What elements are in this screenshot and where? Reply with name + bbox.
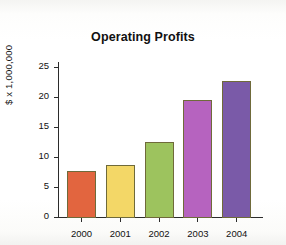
x-tick-label-2004: 2004 <box>216 228 257 239</box>
bars-group: 20002001200220032004 <box>58 62 263 218</box>
x-tick-2004 <box>236 218 237 222</box>
y-tick-label-25: 25 <box>29 60 49 71</box>
chart-title: Operating Profits <box>0 30 286 44</box>
plot-area: 0510152025 20002001200220032004 <box>58 62 263 218</box>
bar-chart-figure: Operating Profits $ x 1,000,000 05101520… <box>0 0 286 245</box>
bar-2002 <box>145 142 174 218</box>
x-tick-2002 <box>159 218 160 222</box>
y-axis-title: $ x 1,000,000 <box>3 0 14 105</box>
x-tick-label-2000: 2000 <box>61 228 102 239</box>
x-tick-label-2001: 2001 <box>100 228 141 239</box>
y-tick-label-20: 20 <box>29 90 49 101</box>
bar-slot: 2002 <box>139 62 180 218</box>
bar-slot: 2003 <box>177 62 218 218</box>
bar-2001 <box>106 165 135 218</box>
bar-2000 <box>67 171 96 218</box>
bar-slot: 2004 <box>216 62 257 218</box>
x-tick-2003 <box>197 218 198 222</box>
bar-2003 <box>183 100 212 218</box>
bar-slot: 2001 <box>100 62 141 218</box>
x-tick-2001 <box>120 218 121 222</box>
x-tick-label-2002: 2002 <box>139 228 180 239</box>
x-tick-2000 <box>81 218 82 222</box>
x-tick-label-2003: 2003 <box>177 228 218 239</box>
y-tick-label-0: 0 <box>29 210 49 221</box>
y-tick-label-10: 10 <box>29 150 49 161</box>
bar-slot: 2000 <box>61 62 102 218</box>
y-tick-label-5: 5 <box>29 180 49 191</box>
y-tick-label-15: 15 <box>29 120 49 131</box>
bar-2004 <box>222 81 251 218</box>
